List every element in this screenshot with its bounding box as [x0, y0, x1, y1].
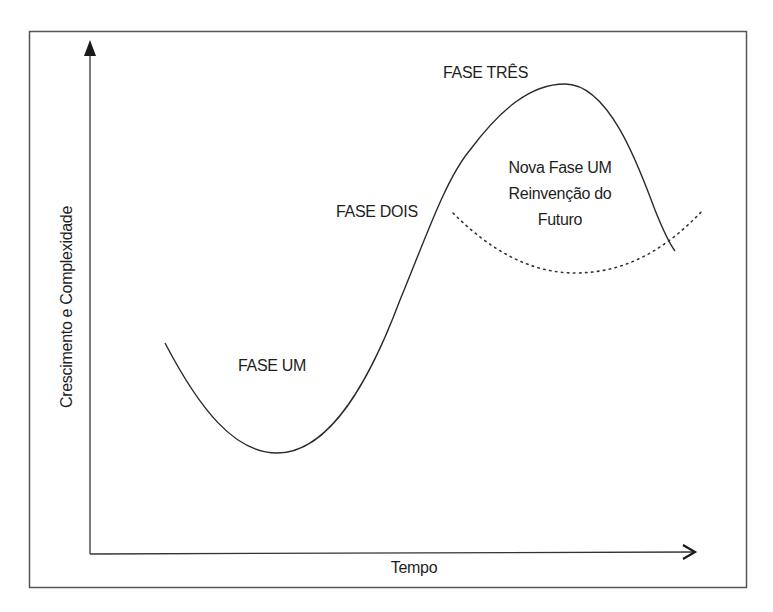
new-phase-line-2: Reinvenção do [509, 185, 612, 202]
main-s-curve [165, 84, 675, 453]
new-phase-line-3: Futuro [538, 211, 583, 228]
y-axis-arrowhead-icon [84, 40, 96, 56]
diagram-frame [30, 32, 747, 588]
x-axis [90, 552, 694, 554]
life-cycle-diagram: FASE UM FASE DOIS FASE TRÊS Nova Fase UM… [0, 0, 773, 612]
phase-one-label: FASE UM [238, 357, 306, 374]
phase-three-label: FASE TRÊS [443, 63, 528, 81]
y-axis-label: Crescimento e Complexidade [58, 206, 75, 408]
new-phase-line-1: Nova Fase UM [508, 159, 611, 176]
phase-two-label: FASE DOIS [336, 203, 418, 220]
x-axis-label: Tempo [391, 559, 438, 576]
new-phase-label: Nova Fase UM Reinvenção do Futuro [508, 159, 611, 228]
